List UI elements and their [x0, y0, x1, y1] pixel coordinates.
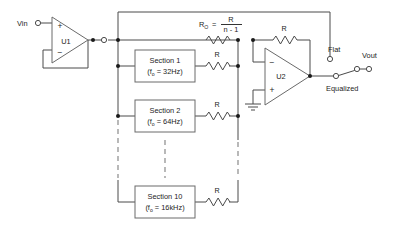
resistor-section-1-label: R	[214, 50, 219, 59]
section-block-1-name: Section 1	[150, 56, 181, 65]
section-block-2-name: Section 2	[150, 106, 181, 115]
wire-sum-node-to-u2-minus	[253, 40, 265, 62]
label-switch-equalized: Equalized	[326, 84, 358, 93]
switch-blade[interactable]	[337, 70, 356, 76]
opamp-u2: − + U2	[265, 48, 310, 105]
label-vin: Vin	[17, 19, 28, 28]
resistor-r0-equals: =	[212, 20, 216, 29]
resistor-section-10-label: R	[214, 186, 219, 195]
resistor-section-1-zigzag	[206, 62, 230, 70]
terminal-vin[interactable]	[35, 20, 40, 25]
resistor-u2-feedback: R	[273, 24, 297, 44]
resistor-section-10-zigzag	[206, 198, 230, 206]
terminal-vout[interactable]	[366, 66, 371, 71]
switch-common-pivot[interactable]	[354, 66, 359, 71]
resistor-section-2-label: R	[214, 100, 219, 109]
resistor-u2-feedback-zigzag	[273, 36, 297, 44]
label-switch-flat: Flat	[328, 45, 340, 54]
terminal-buffer-output[interactable]	[101, 37, 106, 42]
node-bus-section-1	[116, 64, 120, 68]
opamp-u2-reference-label: U2	[276, 72, 285, 81]
ground-symbol	[245, 104, 261, 110]
section-block-10: Section 10 (fo = 16kHz)	[135, 186, 195, 218]
opamp-u1-minus-sign: −	[58, 47, 63, 57]
node-bus-top	[116, 38, 120, 42]
section-block-10-name: Section 10	[148, 192, 183, 201]
section-block-2: Section 2 (fo = 64Hz)	[135, 100, 195, 132]
opamp-u2-minus-sign: −	[270, 57, 275, 67]
switch-contact-flat[interactable]	[327, 56, 332, 61]
resistor-section-2-zigzag	[206, 112, 230, 120]
resistor-section-10: R	[206, 186, 230, 206]
node-sum-bus-top	[236, 38, 240, 42]
section-block-2-outline	[135, 100, 195, 132]
wire-u2-plus-to-ground	[253, 90, 265, 104]
node-sum-bus-section-1	[236, 64, 240, 68]
label-vout: Vout	[362, 51, 377, 60]
node-bus-section-2	[116, 114, 120, 118]
opamp-u2-plus-sign: +	[270, 85, 275, 95]
opamp-u1: + − U1	[52, 17, 88, 63]
node-u1-output	[91, 38, 95, 42]
node-u2-inverting	[251, 38, 255, 42]
resistor-section-1: R	[206, 50, 230, 70]
resistor-r0-denominator: n - 1	[224, 25, 239, 34]
circuit-diagram-canvas: + − U1 − + U2 Section 1 (fo = 32Hz) Sect…	[0, 0, 395, 237]
resistor-section-2: R	[206, 100, 230, 120]
resistor-r0-symbol: RO	[199, 20, 208, 30]
section-block-1-outline	[135, 50, 195, 82]
node-u2-output	[308, 74, 312, 78]
section-block-1: Section 1 (fo = 32Hz)	[135, 50, 195, 82]
opamp-u1-plus-sign: +	[58, 21, 63, 31]
resistor-r0-formula: RO = R n - 1	[199, 15, 242, 34]
node-sum-bus-section-2	[236, 114, 240, 118]
resistor-u2-feedback-label: R	[281, 24, 286, 33]
section-block-10-outline	[135, 186, 195, 218]
opamp-u1-reference-label: U1	[61, 37, 70, 46]
wire-left-bus-lower	[118, 180, 135, 202]
switch-contact-equalized[interactable]	[333, 73, 338, 78]
resistor-r0-numerator: R	[228, 15, 233, 24]
